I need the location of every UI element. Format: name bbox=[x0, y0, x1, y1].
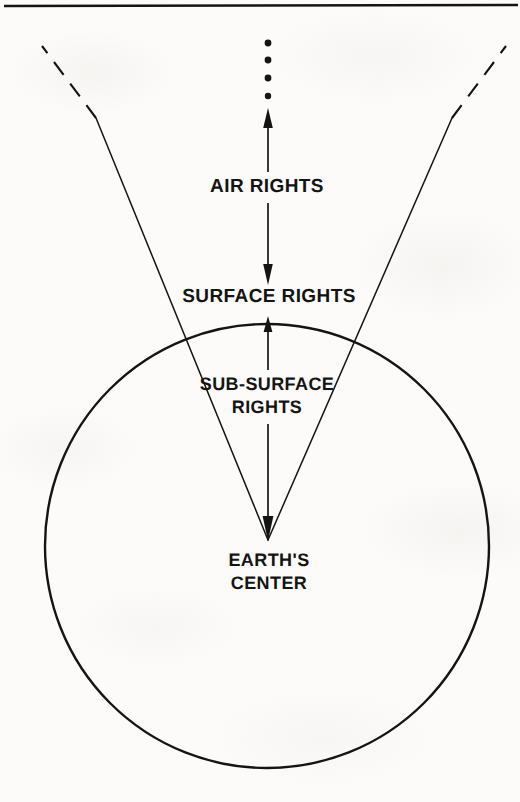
air-rights-down-arrow-head bbox=[263, 264, 273, 285]
figure-page: AIR RIGHTS SURFACE RIGHTS SUB-SURFACE RI… bbox=[0, 0, 520, 802]
continuation-dot-1 bbox=[265, 40, 272, 47]
sub-surface-rights-text-line-2: RIGHTS bbox=[200, 396, 334, 419]
left-ownership-ray-dashed bbox=[42, 46, 96, 118]
continuation-dot-4 bbox=[265, 93, 271, 99]
right-ownership-ray-dashed bbox=[452, 46, 506, 118]
continuation-dot-2 bbox=[265, 57, 272, 64]
sub-surface-rights-label: SUB-SURFACE RIGHTS bbox=[200, 373, 334, 419]
continuation-dot-3 bbox=[265, 75, 272, 82]
air-rights-text: AIR RIGHTS bbox=[210, 176, 324, 197]
sub-surface-down-arrow-head bbox=[263, 516, 274, 541]
surface-rights-label: SURFACE RIGHTS bbox=[182, 286, 355, 308]
top-rule bbox=[4, 5, 518, 6]
earths-center-text-line-2: CENTER bbox=[228, 572, 309, 595]
surface-rights-text: SURFACE RIGHTS bbox=[182, 286, 355, 307]
earths-center-text-line-1: EARTH'S bbox=[228, 549, 309, 572]
air-rights-up-arrow-head bbox=[263, 108, 273, 128]
air-rights-label: AIR RIGHTS bbox=[210, 176, 324, 198]
sub-surface-rights-text-line-1: SUB-SURFACE bbox=[200, 373, 334, 396]
earths-center-label: EARTH'S CENTER bbox=[228, 549, 309, 595]
